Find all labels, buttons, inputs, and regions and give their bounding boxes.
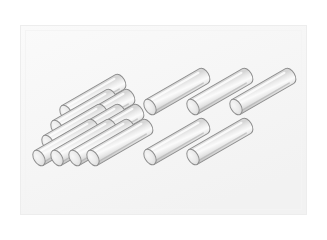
illustration-canvas: Cylinder counting illustration Fifteen i… bbox=[0, 0, 327, 240]
cylinders-scene bbox=[0, 0, 327, 240]
